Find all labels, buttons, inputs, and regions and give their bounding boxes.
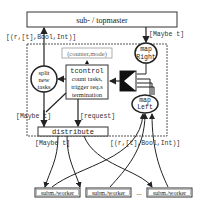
- split-line2: new: [39, 76, 50, 83]
- split-line1: split: [38, 69, 49, 76]
- worker-2-label: subm./worker: [92, 190, 125, 196]
- maybe-label-left: [Maybe t]: [16, 113, 51, 120]
- request-label: [request]: [80, 113, 115, 120]
- tcontrol-title: tcontrol: [70, 67, 104, 75]
- map-left-line1: map: [139, 97, 151, 104]
- ellipsis: ...: [136, 189, 142, 197]
- distribute-label: distribute: [52, 128, 94, 136]
- results-label-top: [(r,[t],Bool,Int)]: [6, 34, 76, 41]
- map-left-line2: Left: [137, 104, 153, 111]
- split-line3: tasks: [38, 83, 51, 90]
- worker-1-label: subm./worker: [41, 190, 74, 196]
- tcontrol-line4: termination: [72, 91, 103, 98]
- maybe-label-top: [Maybe t]: [149, 31, 184, 38]
- counter-mode-label: (counter,mode): [67, 50, 107, 58]
- map-right-line1: map: [140, 46, 152, 53]
- map-right-line2: Right: [136, 54, 156, 61]
- tcontrol-line3: trigger req.s: [71, 83, 103, 90]
- tcontrol-line2: count tasks,: [72, 75, 103, 82]
- maybe-label-bottom: [Maybe t]: [35, 140, 70, 147]
- diagram: sub- / topmaster [(r,[t],Bool,Int)] [May…: [0, 0, 202, 215]
- worker-3-label: subm./worker: [153, 190, 186, 196]
- worker-2: subm./worker: [86, 188, 131, 197]
- worker-1: subm./worker: [35, 188, 80, 197]
- topmaster-label: sub- / topmaster: [76, 16, 128, 25]
- results-label-bottom: [(r,[t],Bool,Int)]: [110, 140, 180, 147]
- worker-3: subm./worker: [147, 188, 192, 197]
